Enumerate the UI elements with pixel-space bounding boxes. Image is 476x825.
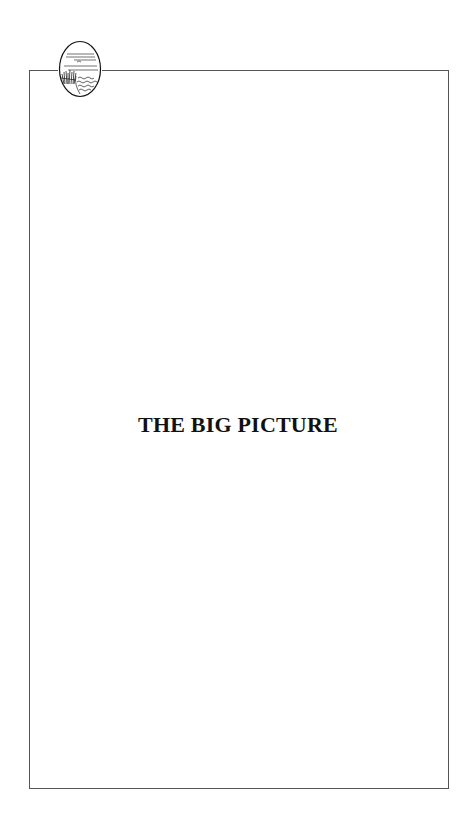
page-title: THE BIG PICTURE [0,412,476,438]
landscape-oval-icon [58,40,102,98]
